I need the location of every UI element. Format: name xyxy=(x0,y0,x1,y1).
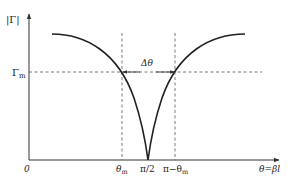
x-tick-pi-minus-theta-m: π−θm xyxy=(163,164,188,176)
y-axis-label: |Γ| xyxy=(6,14,20,26)
gamma-m-label: Γm xyxy=(12,67,26,80)
origin-label: 0 xyxy=(24,164,30,174)
reflection-coefficient-diagram: |Γ| Γm Δθ 0 θm π/2 π−θm θ=βl xyxy=(0,0,290,183)
x-tick-pi-half: π/2 xyxy=(140,164,155,174)
gamma-curve xyxy=(52,34,245,160)
x-tick-theta-m: θm xyxy=(116,164,128,176)
x-axis-label: θ=βl xyxy=(259,164,280,174)
delta-theta-label: Δθ xyxy=(140,58,153,68)
